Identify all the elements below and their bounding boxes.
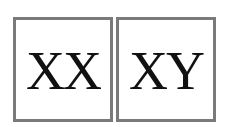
chromosome-box-xx: XX: [13, 17, 113, 122]
chromosome-box-xy: XY: [116, 17, 216, 122]
chromosome-label-xy: XY: [129, 44, 203, 98]
chromosome-label-xx: XX: [26, 44, 100, 98]
